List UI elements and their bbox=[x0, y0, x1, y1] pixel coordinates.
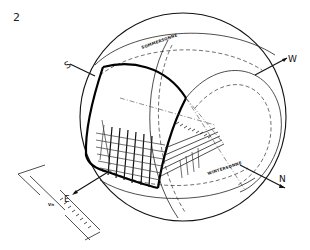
north-label: N bbox=[279, 174, 286, 184]
axis-west bbox=[255, 58, 287, 75]
horizon-ellipse-dashed bbox=[100, 50, 262, 75]
projection-rays bbox=[120, 98, 245, 190]
sphere-diagram: SOMMERSONNE WINTERSONNE W N S E Vn bbox=[0, 0, 310, 250]
sphere-outline bbox=[80, 13, 286, 221]
window-frame-left bbox=[86, 67, 108, 172]
sun-position-marks bbox=[176, 122, 211, 138]
offset-label: Vn bbox=[48, 202, 54, 207]
shading-grid bbox=[96, 120, 165, 187]
upper-arc-label: SOMMERSONNE bbox=[141, 32, 178, 50]
window-frame-top bbox=[103, 64, 186, 98]
axis-lower-left bbox=[72, 172, 108, 195]
horizon-ellipse-upper bbox=[95, 33, 275, 65]
lower-ellipse-dashed bbox=[108, 168, 248, 186]
vertical-arc-dashed bbox=[158, 45, 185, 212]
meridian-right bbox=[186, 70, 281, 192]
west-label: W bbox=[288, 54, 297, 64]
lower-ellipse bbox=[100, 178, 255, 199]
dimension-construction bbox=[18, 165, 100, 240]
